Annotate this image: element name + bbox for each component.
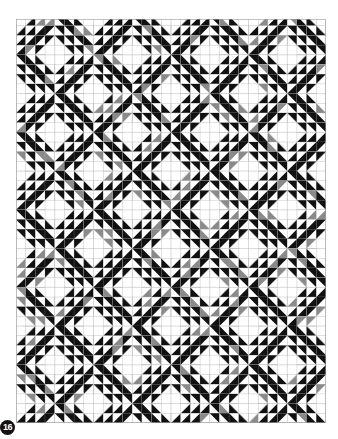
figure-number-badge: 16 — [0, 420, 15, 435]
quilt-pattern — [16, 19, 326, 423]
quilt-illustration — [16, 19, 326, 423]
